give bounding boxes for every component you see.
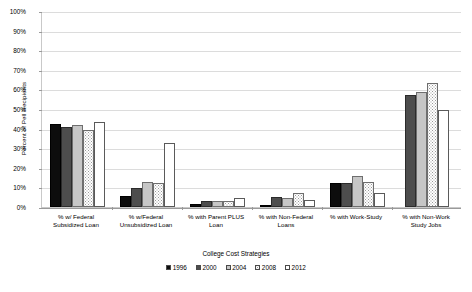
bar (234, 198, 245, 207)
bar (260, 205, 271, 207)
bar (352, 176, 363, 207)
y-axis-tick-label: 70% (0, 67, 26, 74)
bar (131, 188, 142, 207)
category-label-line: % w/Federal (111, 213, 181, 221)
bar (405, 95, 416, 207)
y-axis-tick-label: 80% (0, 47, 26, 54)
bar (304, 200, 315, 207)
bar (61, 127, 72, 207)
bar (190, 204, 201, 207)
legend-label: 2004 (232, 264, 246, 271)
category-label: % with Work-Study (321, 213, 391, 221)
category-label: % w/FederalUnsubsidized Loan (111, 213, 181, 229)
y-axis-tick-label: 0% (0, 204, 26, 211)
category-separator-tick (112, 207, 113, 210)
y-axis-tick-label: 30% (0, 145, 26, 152)
y-axis-tick-label: 40% (0, 126, 26, 133)
bar (120, 196, 131, 207)
bar (438, 110, 449, 207)
category-label-line: % with Parent PLUS (181, 213, 251, 221)
bar (94, 122, 105, 207)
chart-legend: 19962000200420082012 (0, 264, 472, 271)
y-axis-tick-label: 50% (0, 106, 26, 113)
bar (293, 193, 304, 207)
category-label-line: % w/ Federal (41, 213, 111, 221)
y-axis-tick-label: 100% (0, 8, 26, 15)
legend-item[interactable]: 1996 (166, 264, 187, 271)
category-separator-tick (322, 207, 323, 210)
bar (212, 201, 223, 207)
legend-swatch (166, 265, 171, 270)
legend-swatch (226, 265, 231, 270)
category-label-line: % with Work-Study (321, 213, 391, 221)
category-separator-tick (392, 207, 393, 210)
legend-item[interactable]: 2008 (255, 264, 276, 271)
y-axis-tick-label: 60% (0, 86, 26, 93)
legend-item[interactable]: 2000 (196, 264, 217, 271)
bar (50, 124, 61, 207)
bar (201, 201, 212, 207)
y-axis-tick-label: 20% (0, 165, 26, 172)
bar (282, 198, 293, 207)
bar (83, 130, 94, 207)
bars-layer (42, 12, 461, 207)
y-axis-tick-label: 90% (0, 28, 26, 35)
bar (223, 201, 234, 207)
category-label-line: Study Jobs (391, 221, 461, 229)
category-label-line: Loan (181, 221, 251, 229)
category-label-line: Subsidized Loan (41, 221, 111, 229)
legend-label: 1996 (173, 264, 187, 271)
bar-group (252, 12, 322, 207)
bar (374, 193, 385, 207)
bar-chart-figure: Percent of Pell Recipients 0%10%20%30%40… (0, 0, 472, 292)
category-label-line: % with Non-Work (391, 213, 461, 221)
y-axis-tick-mark (39, 208, 42, 209)
bar-group (112, 12, 182, 207)
bar (416, 92, 427, 207)
legend-item[interactable]: 2012 (285, 264, 306, 271)
legend-swatch (196, 265, 201, 270)
legend-swatch (255, 265, 260, 270)
y-axis-tick-label: 10% (0, 184, 26, 191)
legend-label: 2000 (202, 264, 216, 271)
category-label: % w/ FederalSubsidized Loan (41, 213, 111, 229)
category-label: % with Non-WorkStudy Jobs (391, 213, 461, 229)
category-label-line: Unsubsidized Loan (111, 221, 181, 229)
category-label-line: Loans (251, 221, 321, 229)
category-label: % with Parent PLUSLoan (181, 213, 251, 229)
bar-group (182, 12, 252, 207)
bar (153, 183, 164, 207)
legend-item[interactable]: 2004 (226, 264, 247, 271)
legend-swatch (285, 265, 290, 270)
bar (363, 182, 374, 207)
bar (427, 83, 438, 207)
bar (164, 143, 175, 207)
legend-label: 2012 (292, 264, 306, 271)
bar (72, 125, 83, 207)
bar (271, 197, 282, 207)
category-separator-tick (252, 207, 253, 210)
category-separator-tick (182, 207, 183, 210)
plot-area: 0%10%20%30%40%50%60%70%80%90%100% (41, 12, 461, 208)
bar-group (42, 12, 112, 207)
bar (142, 182, 153, 207)
legend-label: 2008 (262, 264, 276, 271)
category-label: % with Non-FederalLoans (251, 213, 321, 229)
x-axis-title: College Cost Strategies (0, 250, 472, 257)
bar-group (322, 12, 392, 207)
bar-group (392, 12, 462, 207)
category-label-line: % with Non-Federal (251, 213, 321, 221)
bar (330, 183, 341, 208)
bar (341, 183, 352, 207)
category-axis-labels: % w/ FederalSubsidized Loan% w/FederalUn… (41, 213, 461, 239)
